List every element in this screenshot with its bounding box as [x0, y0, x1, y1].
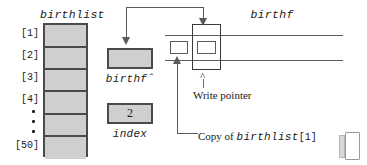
write-pointer-label: Write pointer: [193, 89, 252, 101]
copy-of-horizontal-segment: [177, 133, 198, 134]
connector-buffer-up-segment: [126, 7, 127, 37]
write-pointer-leader-line: [203, 79, 204, 88]
page-corner-icon: [338, 132, 360, 160]
connector-top-horizontal-segment: [126, 7, 204, 8]
array-cell-1: [45, 25, 86, 48]
index-label: index: [104, 128, 156, 140]
copy-of-variable-name: birthlist: [237, 131, 299, 143]
array-index-label-2: [2]: [8, 50, 39, 61]
copy-of-subscript: [1]: [299, 132, 317, 143]
array-ellipsis-dot-1: [32, 110, 35, 113]
copy-of-label: Copy of birthlist[1]: [198, 126, 317, 144]
birthf-pointer-box: [107, 48, 153, 69]
array-cell-50: [45, 137, 86, 159]
copy-of-vertical-segment: [177, 62, 178, 133]
connector-writehead-arrowhead: [199, 18, 207, 26]
array-cell-3: [45, 70, 86, 92]
pascal-file-write-diagram: birthlist [1] [2] [3] [4] [50] birthfˆ 2…: [0, 0, 367, 165]
file-buffered-record-box: [197, 41, 216, 54]
index-value: 2: [127, 106, 133, 121]
array-ellipsis-dot-3: [32, 130, 35, 133]
array-index-label-50: [50]: [4, 140, 39, 151]
index-box: 2: [107, 103, 153, 124]
page-icon-sheet: [345, 132, 360, 160]
birthlist-title: birthlist: [40, 8, 92, 21]
birthf-file-title: birthf: [246, 8, 298, 21]
birthf-pointer-label: birthfˆ: [104, 73, 156, 85]
array-cell-4: [45, 92, 86, 115]
array-ellipsis-dot-2: [32, 120, 35, 123]
array-index-label-3: [3]: [8, 72, 39, 83]
array-index-label-4: [4]: [8, 94, 39, 105]
array-cell-5: [45, 115, 86, 137]
file-record-box: [170, 41, 188, 54]
copy-of-text: Copy of: [198, 130, 237, 142]
connector-buffer-arrowhead: [122, 37, 130, 45]
array-cell-2: [45, 48, 86, 70]
array-index-label-1: [1]: [8, 28, 39, 39]
birthlist-array: [43, 23, 88, 157]
